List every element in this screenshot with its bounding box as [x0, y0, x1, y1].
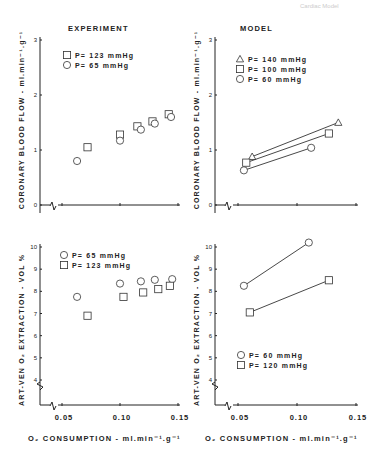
square-marker: [63, 51, 70, 58]
circle-marker: [237, 351, 244, 358]
circle-marker: [137, 278, 144, 285]
legend-entry: P= 65 mmHg: [75, 62, 129, 70]
y-tick-label: 7: [209, 311, 213, 317]
panel-title-experiment: EXPERIMENT: [68, 24, 129, 33]
panel-title-model: MODEL: [240, 24, 273, 33]
circle-marker: [305, 239, 312, 246]
x-axis-label-right: O₂ CONSUMPTION - ml.min⁻¹.g⁻¹: [205, 434, 358, 443]
y-axis-label-flow-right: CORONARY BLOOD FLOW - ml.min⁻¹.g⁻¹: [193, 31, 201, 210]
circle-marker: [151, 276, 158, 283]
x-tick-label: 0.10: [113, 413, 132, 422]
y-tick-label: 1: [34, 147, 38, 153]
square-marker: [120, 293, 127, 300]
square-marker: [140, 289, 147, 296]
page-header: Cardiac Model: [300, 3, 339, 9]
triangle-marker: [249, 153, 256, 159]
y-tick-label: 9: [209, 266, 213, 272]
chart-panel-bottom-right: 456789100.050.100.15: [205, 239, 367, 422]
square-marker: [60, 261, 67, 268]
y-tick-label: 6: [34, 333, 38, 339]
y-tick-label: 0: [34, 202, 38, 208]
y-tick-label: 6: [209, 333, 213, 339]
x-tick-label: 0.05: [55, 413, 74, 422]
square-marker: [84, 144, 91, 151]
square-marker: [155, 286, 162, 293]
y-tick-label: 3: [34, 37, 38, 43]
legend-entry: P= 120 mmHg: [249, 362, 308, 370]
circle-marker: [151, 120, 158, 127]
y-tick-label: 5: [34, 355, 38, 361]
square-marker: [325, 130, 332, 137]
y-tick-label: 2: [209, 92, 213, 98]
legend-entry: P= 100 mmHg: [248, 66, 307, 74]
y-tick-label: 4: [209, 377, 213, 383]
x-tick-label: 0.05: [231, 413, 250, 422]
legend-entry: P= 60 mmHg: [248, 76, 302, 84]
legend-entry: P= 123 mmHg: [72, 262, 131, 270]
legend-model-extraction: P= 60 mmHgP= 120 mmHg: [237, 351, 308, 370]
y-tick-label: 10: [30, 244, 37, 250]
circle-marker: [60, 251, 67, 258]
circle-marker: [116, 280, 123, 287]
legend-experiment-extraction: P= 65 mmHgP= 123 mmHg: [60, 251, 131, 270]
y-tick-label: 3: [209, 37, 213, 43]
square-marker: [236, 65, 243, 72]
y-tick-label: 1: [209, 147, 213, 153]
y-tick-label: 5: [209, 355, 213, 361]
circle-marker: [73, 293, 80, 300]
legend-entry: P= 123 mmHg: [75, 52, 134, 60]
series-line: [250, 280, 329, 312]
circle-marker: [169, 276, 176, 283]
y-tick-label: 4: [34, 377, 38, 383]
legend-entry: P= 65 mmHg: [72, 252, 126, 260]
chart-panel-bottom-left: 456789100.050.100.15: [30, 244, 189, 422]
square-marker: [325, 277, 332, 284]
legend-experiment-flow: P= 123 mmHgP= 65 mmHg: [63, 51, 134, 70]
circle-marker: [240, 282, 247, 289]
y-tick-label: 10: [205, 244, 212, 250]
y-axis-label-extraction-left: ART-VEN O₂ EXTRACTION - VOL %: [18, 254, 25, 406]
x-tick-label: 0.15: [171, 413, 190, 422]
circle-marker: [63, 61, 70, 68]
square-marker: [237, 361, 244, 368]
circle-marker: [240, 167, 247, 174]
circle-marker: [308, 144, 315, 151]
triangle-marker: [335, 119, 342, 125]
chart-panel-top-right: 0123: [209, 37, 358, 213]
x-axis-label-left: O₂ CONSUMPTION - ml.min⁻¹.g⁻¹: [28, 434, 181, 443]
y-axis-label-flow-left: CORONARY BLOOD FLOW - ml.min⁻¹.g⁻¹: [18, 31, 26, 210]
x-tick-label: 0.15: [349, 413, 368, 422]
series-line: [246, 134, 329, 163]
circle-marker: [116, 137, 123, 144]
figure: 01230123456789100.050.100.15456789100.05…: [0, 0, 374, 455]
circle-marker: [73, 157, 80, 164]
square-marker: [84, 312, 91, 319]
triangle-marker: [236, 55, 243, 61]
square-marker: [166, 282, 173, 289]
series-line: [244, 243, 309, 286]
y-tick-label: 9: [34, 266, 38, 272]
square-marker: [243, 159, 250, 166]
series-line: [252, 123, 338, 157]
legend-entry: P= 140 mmHg: [248, 56, 307, 64]
legend-model-flow: P= 140 mmHgP= 100 mmHgP= 60 mmHg: [236, 55, 307, 84]
legend-entry: P= 60 mmHg: [249, 352, 303, 360]
y-tick-label: 8: [34, 288, 38, 294]
square-marker: [246, 309, 253, 316]
y-tick-label: 7: [34, 311, 38, 317]
circle-marker: [167, 113, 174, 120]
y-tick-label: 0: [209, 202, 213, 208]
circle-marker: [137, 126, 144, 133]
circle-marker: [236, 75, 243, 82]
y-tick-label: 2: [34, 92, 38, 98]
x-tick-label: 0.10: [290, 413, 309, 422]
y-axis-label-extraction-right: ART-VEN O₂ EXTRACTION - VOL %: [193, 254, 200, 406]
y-tick-label: 8: [209, 288, 213, 294]
